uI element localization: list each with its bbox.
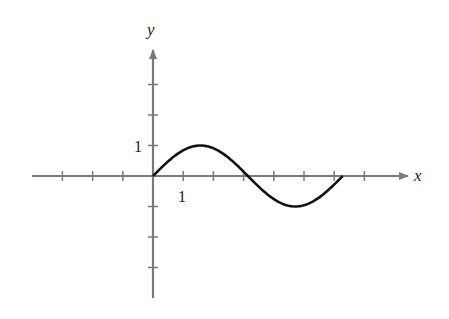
axes (32, 50, 408, 298)
y-tick-label-1: 1 (134, 138, 142, 155)
sine-graph: x y 1 1 (0, 0, 449, 319)
x-tick-label-1: 1 (178, 188, 186, 205)
x-axis-label: x (413, 166, 422, 185)
y-axis-label: y (145, 20, 155, 39)
